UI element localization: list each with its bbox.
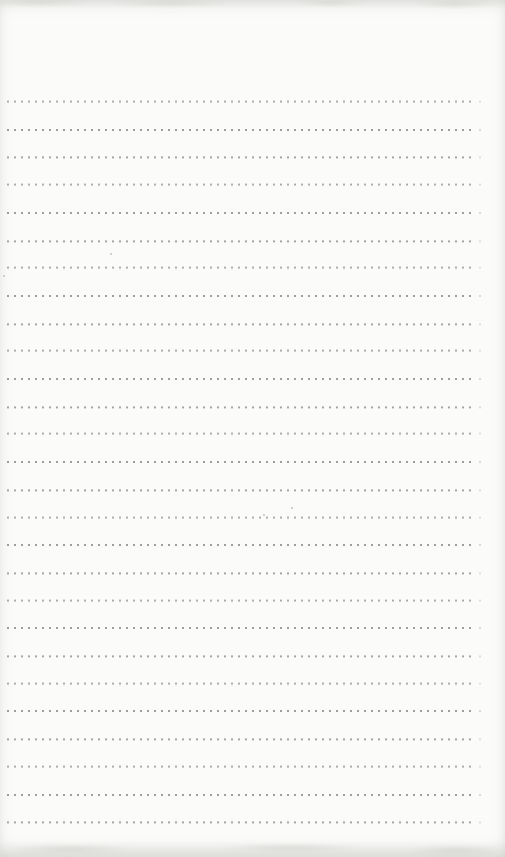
scan-speck <box>3 275 5 277</box>
dotted-rule-line <box>7 516 475 518</box>
dotted-rule-line <box>7 599 475 601</box>
dotted-rule-line <box>7 489 475 491</box>
scan-smudge <box>295 0 365 6</box>
notebook-page <box>0 0 505 857</box>
dotted-rule-line <box>7 350 475 352</box>
dotted-rule-line <box>7 212 475 214</box>
dotted-ruling <box>0 0 505 857</box>
dotted-rule-line <box>7 406 475 408</box>
dotted-rule-line <box>7 129 475 131</box>
dotted-rule-line <box>7 461 475 463</box>
scan-smudge <box>415 0 495 8</box>
dotted-rule-line <box>7 267 475 269</box>
scan-smudge <box>10 844 130 854</box>
dotted-rule-line <box>7 101 475 103</box>
scan-speck <box>263 514 265 516</box>
dotted-rule-line <box>7 157 475 159</box>
scan-speck <box>291 507 293 509</box>
dotted-rule-line <box>7 295 475 297</box>
dotted-rule-line <box>7 378 475 380</box>
dotted-rule-line <box>7 655 475 657</box>
scan-smudge <box>410 845 500 856</box>
dotted-rule-line <box>7 765 475 767</box>
dotted-rule-line <box>7 323 475 325</box>
dotted-rule-line <box>7 794 475 796</box>
dotted-rule-line <box>7 572 475 574</box>
dotted-rule-line <box>7 822 475 824</box>
dotted-rule-line <box>7 184 475 186</box>
dotted-rule-line <box>7 710 475 712</box>
dotted-rule-line <box>7 738 475 740</box>
dotted-rule-line <box>7 682 475 684</box>
dotted-rule-line <box>7 544 475 546</box>
dotted-rule-line <box>7 627 475 629</box>
dotted-rule-line <box>7 433 475 435</box>
scan-speck <box>110 253 112 255</box>
scan-smudge <box>220 843 360 853</box>
dotted-rule-line <box>7 240 475 242</box>
